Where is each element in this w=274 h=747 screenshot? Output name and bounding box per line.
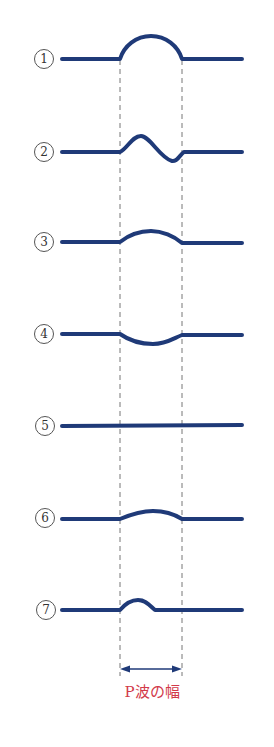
wave-1-label: 1 — [34, 49, 54, 69]
wave-2-label: 2 — [34, 142, 54, 162]
wave-2-trace — [62, 136, 242, 161]
wave-7-trace — [62, 600, 242, 610]
wave-5-label: 5 — [35, 416, 55, 436]
wave-7-label: 7 — [36, 600, 56, 620]
wave-6-trace — [62, 511, 242, 519]
width-arrow — [120, 666, 182, 673]
wave-5-trace — [62, 425, 242, 426]
wave-1-trace — [62, 36, 242, 59]
wave-3-label: 3 — [34, 232, 54, 252]
p-wave-width-caption: P波の幅 — [100, 680, 204, 701]
wave-6-label: 6 — [35, 508, 55, 528]
wave-3-trace — [62, 231, 242, 243]
p-wave-diagram — [0, 0, 274, 747]
wave-4-trace — [62, 334, 242, 344]
wave-4-label: 4 — [34, 324, 54, 344]
